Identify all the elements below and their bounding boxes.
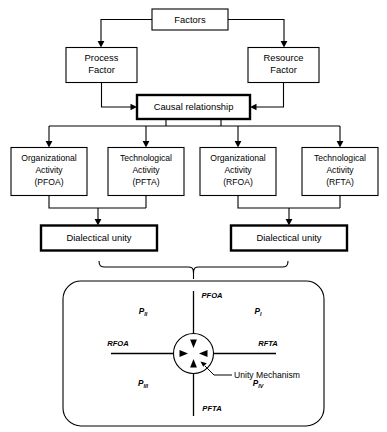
quadrant-bottom-left-subscript: III bbox=[143, 383, 148, 389]
dialectical-unity-left-label: Dialectical unity bbox=[66, 232, 131, 243]
axis-label-left: RFOA bbox=[107, 339, 129, 348]
node-factors: Factors bbox=[152, 9, 228, 30]
node-activity-rfoa: Organizational Activity (RFOA) bbox=[200, 148, 276, 196]
dialectical-unity-right-label: Dialectical unity bbox=[256, 232, 321, 243]
activity-rfoa-line2: Activity bbox=[224, 165, 252, 175]
activity-pfoa-line1: Organizational bbox=[21, 153, 77, 163]
factors-label: Factors bbox=[174, 14, 206, 25]
diagram-canvas: Factors Process Factor Resource Factor bbox=[0, 0, 387, 432]
node-resource-factor: Resource Factor bbox=[248, 48, 319, 83]
activity-rfoa-line3: (RFOA) bbox=[223, 177, 253, 187]
activity-pfta-line1: Technological bbox=[120, 153, 172, 163]
arrowhead-to-pfta bbox=[143, 141, 150, 148]
quadrant-bottom-right-subscript: IV bbox=[258, 383, 263, 389]
causal-relationship-label: Causal relationship bbox=[154, 101, 234, 112]
quadrant-top-left-subscript: II bbox=[144, 311, 147, 317]
process-factor-label-line2: Factor bbox=[88, 64, 115, 75]
resource-factor-label-line2: Factor bbox=[270, 64, 297, 75]
activity-rfta-line2: Activity bbox=[326, 165, 354, 175]
axis-label-bottom: PFTA bbox=[202, 404, 221, 413]
activity-pfoa-line2: Activity bbox=[35, 165, 63, 175]
node-dialectical-unity-left: Dialectical unity bbox=[41, 226, 157, 251]
connector-causal-fanout bbox=[46, 119, 344, 148]
unity-mechanism-label: Unity Mechanism bbox=[234, 370, 300, 380]
node-activity-pfta: Technological Activity (PFTA) bbox=[108, 148, 184, 196]
arrowhead-to-rfoa bbox=[235, 141, 242, 148]
arrowhead-to-resource-factor bbox=[281, 41, 288, 48]
node-process-factor: Process Factor bbox=[66, 48, 137, 83]
node-activity-rfta: Technological Activity (RFTA) bbox=[302, 148, 378, 196]
arrowhead-to-pfoa bbox=[46, 141, 53, 148]
process-factor-label-line1: Process bbox=[85, 52, 119, 63]
arrowhead-to-process-factor bbox=[98, 41, 105, 48]
axis-label-top: PFOA bbox=[201, 291, 222, 300]
activity-pfoa-line3: (PFOA) bbox=[34, 177, 63, 187]
factors-causal-diagram: Factors Process Factor Resource Factor bbox=[0, 0, 387, 432]
connector-activities-to-unity-right bbox=[238, 196, 340, 226]
activity-rfta-line1: Technological bbox=[314, 153, 366, 163]
quadrant-panel: PFOA PFTA RFOA RFTA PII PI PIII bbox=[63, 281, 324, 426]
node-activity-pfoa: Organizational Activity (PFOA) bbox=[11, 148, 87, 196]
activity-rfoa-line1: Organizational bbox=[210, 153, 266, 163]
activity-pfta-line2: Activity bbox=[132, 165, 160, 175]
axis-label-right: RFTA bbox=[258, 339, 278, 348]
node-causal-relationship: Causal relationship bbox=[137, 95, 250, 119]
brace-connector bbox=[99, 261, 288, 279]
activity-pfta-line3: (PFTA) bbox=[132, 177, 159, 187]
node-dialectical-unity-right: Dialectical unity bbox=[231, 226, 347, 251]
arrowhead-to-rfta bbox=[337, 141, 344, 148]
resource-factor-label-line1: Resource bbox=[263, 52, 303, 63]
activity-rfta-line3: (RFTA) bbox=[326, 177, 354, 187]
connector-activities-to-unity-left bbox=[49, 196, 146, 226]
